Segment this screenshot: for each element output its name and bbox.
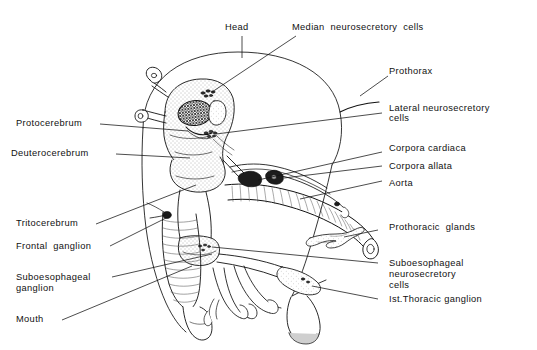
label-first-thoracic-ganglion: Ist.Thoracic ganglion <box>389 294 482 305</box>
label-prothoracic-glands: Prothoracic glands <box>389 222 475 233</box>
leader-suboesophageal-nsc <box>212 247 378 263</box>
leader-prothorax <box>360 76 388 96</box>
label-suboesophageal-ganglion-line2: ganglion <box>16 283 54 294</box>
label-suboesophageal-nsc-line1: Suboesophageal <box>389 258 464 269</box>
leader-first-thoracic-ganglion <box>312 286 378 299</box>
label-deuterocerebrum: Deuterocerebrum <box>11 148 89 159</box>
label-corpora-cardiaca: Corpora cardiaca <box>389 143 466 154</box>
label-prothorax: Prothorax <box>389 66 432 77</box>
label-protocerebrum: Protocerebrum <box>16 118 82 129</box>
label-head: Head <box>225 22 249 33</box>
label-frontal-ganglion: Frontal ganglion <box>16 241 91 252</box>
label-suboesophageal-nsc-line2: neurosecretory <box>389 269 456 280</box>
figure-canvas: Head Median neurosecretory cells Prothor… <box>0 0 537 350</box>
label-median-neurosecretory-cells: Median neurosecretory cells <box>292 22 424 33</box>
label-corpora-allata: Corpora allata <box>389 161 452 172</box>
label-suboesophageal-nsc-line3: cells <box>389 280 409 291</box>
label-mouth: Mouth <box>16 314 44 325</box>
label-tritocerebrum: Tritocerebrum <box>16 218 78 229</box>
label-lateral-neurosecretory-cells-line1: Lateral neurosecretory <box>389 103 490 114</box>
leader-corpora-allata <box>284 166 382 178</box>
label-lateral-neurosecretory-cells-line2: cells <box>389 113 409 124</box>
label-aorta: Aorta <box>389 178 413 189</box>
label-suboesophageal-ganglion-line1: Suboesophageal <box>16 272 91 283</box>
